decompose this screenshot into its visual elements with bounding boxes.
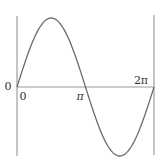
x-tick-label-0: 0 bbox=[20, 90, 27, 103]
y-zero-label: 0 bbox=[5, 80, 12, 93]
sine-wave-chart: 0 0 π 2π bbox=[0, 0, 164, 164]
x-tick-label-pi: π bbox=[75, 90, 84, 103]
x-tick-label-2pi: 2π bbox=[134, 74, 148, 87]
